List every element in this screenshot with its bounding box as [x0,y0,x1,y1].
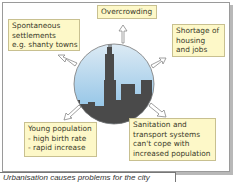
box-line: housing [176,36,221,46]
box-line: increased population [133,149,212,159]
box-spontaneous-settlements: Spontaneous settlements e.g. shanty town… [8,19,80,51]
box-line: Shortage of [176,26,221,36]
box-line: settlements [12,31,76,41]
box-line: can't cope with [133,139,212,149]
city-skyline-circle [70,42,160,130]
box-sanitation-transport: Sanitation and transport systems can't c… [129,118,216,161]
figure-caption: Urbanisation causes problems for the cit… [0,172,176,182]
box-shortage-housing-jobs: Shortage of housing and jobs [172,24,225,57]
box-line: transport systems [133,130,212,140]
box-line: Spontaneous [12,21,76,31]
box-line: - rapid increase [28,143,93,153]
box-line: and jobs [176,45,221,55]
box-line: Overcrowding [101,7,153,17]
box-line: Sanitation and [133,120,212,130]
box-young-population: Young population - high birth rate - rap… [24,122,97,157]
box-overcrowding: Overcrowding [97,5,157,19]
box-line: - high birth rate [28,134,93,144]
box-line: e.g. shanty towns [12,40,76,50]
box-line: Young population [28,124,93,134]
